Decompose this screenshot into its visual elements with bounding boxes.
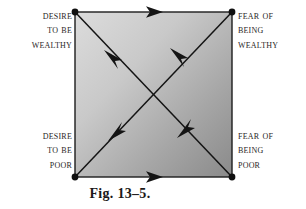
label-line: being	[238, 22, 306, 36]
bottom-right-node	[229, 174, 236, 181]
label-line: poor	[238, 157, 306, 171]
label-line: being	[238, 142, 306, 156]
label-fear-of-being-wealthy: Fear of being wealthy	[238, 8, 306, 51]
label-line: Fear of	[238, 8, 306, 22]
bottom-left-node	[72, 174, 79, 181]
top-left-node	[72, 9, 79, 16]
label-line: Desire	[0, 128, 72, 142]
label-fear-of-being-poor: Fear of being poor	[238, 128, 306, 171]
label-line: Fear of	[238, 128, 306, 142]
top-right-node	[229, 9, 236, 16]
label-line: poor	[0, 157, 72, 171]
label-desire-to-be-wealthy: Desire to be wealthy	[0, 8, 72, 51]
figure-13-5: Desire to be wealthy Fear of being wealt…	[0, 0, 306, 209]
label-line: to be	[0, 22, 72, 36]
figure-caption: Fig. 13–5.	[60, 186, 180, 202]
label-line: Desire	[0, 8, 72, 22]
label-desire-to-be-poor: Desire to be poor	[0, 128, 72, 171]
label-line: wealthy	[238, 37, 306, 51]
label-line: wealthy	[0, 37, 72, 51]
label-line: to be	[0, 142, 72, 156]
